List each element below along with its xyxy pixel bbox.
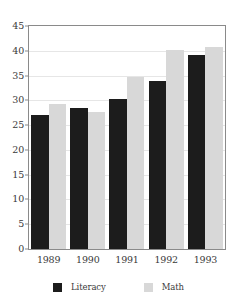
bar-literacy-1989 (31, 115, 49, 249)
y-axis-tick-label: 40 (12, 46, 24, 56)
legend-swatch-literacy-icon (53, 283, 62, 292)
bar-math-1990 (88, 112, 106, 249)
y-axis-tick-label: 5 (18, 219, 24, 229)
legend-label-literacy: Literacy (71, 282, 106, 292)
legend-entry-literacy: Literacy (53, 282, 106, 292)
x-axis-tick-label: 1991 (115, 254, 138, 265)
legend-entry-math: Math (144, 282, 184, 292)
x-axis-tick-label: 1989 (37, 254, 60, 265)
x-axis-tick-label: 1990 (76, 254, 99, 265)
legend-swatch-math-icon (144, 283, 153, 292)
bar-group (186, 26, 225, 249)
x-axis-tick-label: 1992 (154, 254, 177, 265)
bar-literacy-1993 (188, 55, 206, 249)
y-axis-tick-label: 20 (12, 145, 24, 155)
x-axis-tick-label: 1993 (194, 254, 217, 265)
bar-math-1993 (205, 47, 223, 249)
y-axis-tick-label: 45 (12, 21, 24, 31)
bar-chart: 051015202530354045 19891990199119921993 … (0, 0, 237, 301)
y-axis-tick-label: 15 (12, 170, 24, 180)
bar-math-1991 (127, 77, 145, 249)
y-axis-tick-label: 0 (18, 244, 24, 254)
chart-title-clipped (0, 0, 237, 5)
bar-math-1989 (49, 104, 67, 249)
bar-math-1992 (166, 50, 184, 249)
y-axis-tick-label: 35 (12, 71, 24, 81)
x-axis: 19891990199119921993 (28, 252, 226, 268)
bar-literacy-1992 (149, 81, 167, 249)
legend-label-math: Math (162, 282, 184, 292)
y-axis-tick-label: 30 (12, 96, 24, 106)
bar-group (107, 26, 146, 249)
bar-group (147, 26, 186, 249)
y-axis-tick-label: 25 (12, 120, 24, 130)
legend: Literacy Math (0, 278, 237, 296)
bar-literacy-1990 (70, 108, 88, 249)
bar-group (68, 26, 107, 249)
bars-layer (29, 26, 225, 249)
bar-literacy-1991 (109, 99, 127, 249)
y-axis-tick-label: 10 (12, 195, 24, 205)
y-axis: 051015202530354045 (0, 25, 28, 250)
bar-group (29, 26, 68, 249)
